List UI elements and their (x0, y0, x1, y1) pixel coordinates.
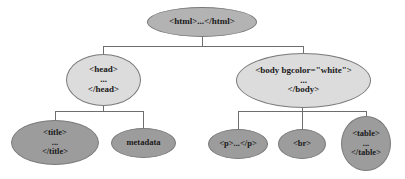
node-html-label: <html>...</html> (169, 17, 235, 27)
node-head-close: </head> (88, 85, 119, 95)
node-p: <p>...</p> (208, 129, 268, 159)
edge-to-head (103, 46, 104, 54)
edge-to-body (303, 46, 304, 53)
node-metadata-label: metadata (127, 138, 161, 147)
html-tree-diagram: <html>...</html> <head> ... </head> <bod… (0, 0, 405, 179)
edge-to-br (302, 111, 303, 129)
node-title: <title> ... </title> (11, 120, 99, 165)
node-html: <html>...</html> (147, 7, 257, 37)
node-table-close: </table> (351, 148, 381, 157)
edge-to-metadata (143, 111, 144, 128)
node-br: <br> (278, 129, 326, 159)
node-head: <head> ... </head> (66, 54, 141, 106)
node-body-close: </body> (288, 85, 320, 95)
edge-html-bar (103, 46, 304, 47)
edge-to-title (55, 111, 56, 120)
edge-html-trunk (202, 36, 203, 46)
node-table: <table> ... </table> (341, 116, 391, 171)
node-title-close: </title> (42, 147, 68, 156)
node-metadata: metadata (111, 128, 176, 158)
node-br-label: <br> (293, 139, 311, 148)
node-body: <body bgcolor="white"> ... </body> (236, 53, 371, 108)
node-p-label: <p>...</p> (219, 139, 257, 148)
edge-to-p (238, 111, 239, 129)
edge-head-bar (55, 111, 144, 112)
